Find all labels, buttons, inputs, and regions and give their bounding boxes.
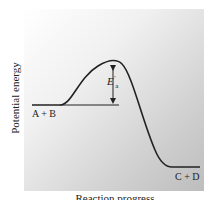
energy-diagram: [0, 0, 210, 200]
products-label: C + D: [175, 171, 200, 182]
y-axis-label: Potential energy: [9, 53, 21, 143]
activation-energy-label: E′a: [107, 74, 118, 90]
x-axis-label: Reaction progress: [60, 192, 170, 200]
reactants-label: A + B: [32, 108, 56, 119]
